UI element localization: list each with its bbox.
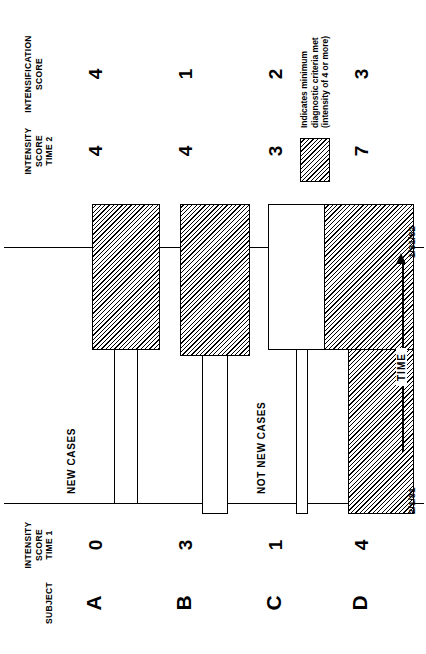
group-label-not-new-cases: NOT NEW CASES	[256, 402, 267, 494]
time-arrow-head-icon	[396, 253, 406, 264]
cell-intensification-a: 4	[85, 48, 107, 100]
cell-intensity-time1-a: 0	[85, 519, 107, 571]
bar-b-segment-open	[202, 354, 228, 514]
cell-intensification-c: 2	[265, 48, 287, 100]
row-label-subject-c: C	[262, 577, 286, 629]
cell-intensity-time2-a: 4	[85, 125, 107, 177]
header-subject: SUBJECT	[44, 572, 55, 634]
header-intensity-score-time-2: INTENSITY SCORE TIME 2	[23, 120, 55, 182]
axis-title-time: TIME	[396, 348, 407, 386]
bar-a-segment-open	[114, 348, 138, 504]
cell-intensity-time2-b: 4	[175, 125, 197, 177]
bar-b-segment-hatched	[180, 204, 250, 356]
axis-label-start-date: 2/1/81	[406, 488, 417, 514]
axis-label-end-date: 1/31/82	[406, 226, 417, 258]
group-label-new-cases: NEW CASES	[66, 428, 77, 494]
header-intensity-score-time-1: INTENSITY SCORE TIME 1	[23, 514, 55, 576]
cell-intensity-time1-b: 3	[175, 519, 197, 571]
legend-hatch-swatch-icon	[300, 138, 330, 182]
row-label-subject-d: D	[348, 577, 372, 629]
header-intensification-score: INTENSIFICATION SCORE	[23, 32, 44, 116]
legend-text: Indicates minimum diagnostic criteria me…	[299, 8, 331, 128]
cell-intensity-time2-d: 7	[351, 125, 373, 177]
time-axis: 2/1/81 1/31/82 TIME	[392, 204, 426, 504]
cell-intensity-time2-c: 3	[265, 125, 287, 177]
cell-intensity-time1-c: 1	[265, 519, 287, 571]
cell-intensification-b: 1	[175, 48, 197, 100]
rotated-figure-wrapper: SUBJECT INTENSITY SCORE TIME 1 INTENSITY…	[0, 0, 426, 654]
plot-area: NEW CASES NOT NEW CASES	[14, 204, 414, 504]
row-label-subject-b: B	[172, 577, 196, 629]
cell-intensity-time1-d: 4	[351, 519, 373, 571]
bar-c-segment-open-narrow	[296, 348, 308, 514]
bar-a-segment-hatched	[92, 204, 160, 350]
figure-canvas: SUBJECT INTENSITY SCORE TIME 1 INTENSITY…	[0, 0, 426, 654]
row-label-subject-a: A	[82, 577, 106, 629]
cell-intensification-d: 3	[351, 48, 373, 100]
